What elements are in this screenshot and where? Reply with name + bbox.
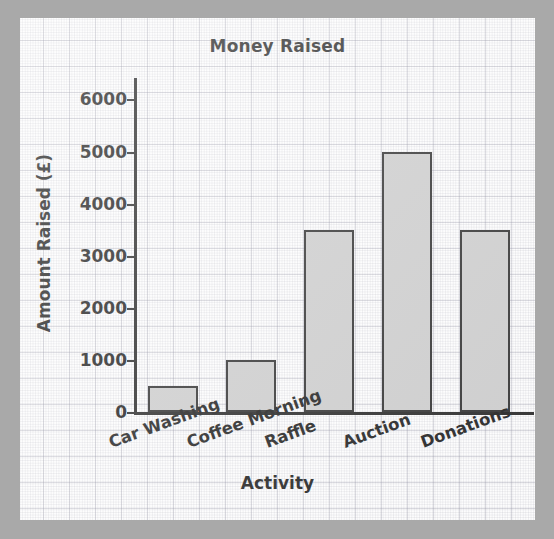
x-axis-title: Activity [20,473,535,493]
bar [382,152,432,413]
chart-title: Money Raised [20,36,535,56]
y-axis-tick [127,99,136,101]
y-axis-tick [127,152,136,154]
y-axis-tick [127,308,136,310]
bar [460,230,510,412]
y-axis-tick [127,360,136,362]
y-axis-line [134,78,137,415]
bar-chart: Money Raised 0100020003000400050006000 C… [20,18,535,520]
y-axis-tick-label: 6000 [41,89,127,109]
y-axis-tick-label: 0 [41,402,127,422]
y-axis-tick [127,204,136,206]
bar [304,230,354,412]
y-axis-title: Amount Raised (£) [34,123,54,363]
x-axis-category-label: Auction [340,410,413,452]
y-axis-tick [127,256,136,258]
y-axis-tick [127,412,136,414]
graph-paper-sheet: Money Raised 0100020003000400050006000 C… [20,18,535,520]
